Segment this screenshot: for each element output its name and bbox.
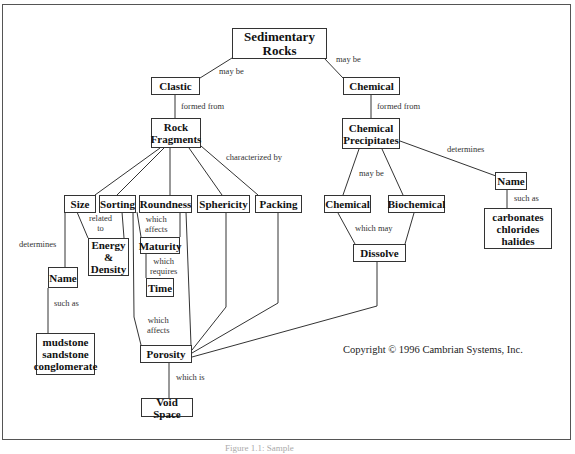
node-carbonates: carbonates chlorides halides (484, 208, 552, 249)
node-roundness: Roundness (139, 195, 192, 213)
link-label-related-to: related to (89, 213, 112, 233)
link-label-which-is: which is (176, 372, 205, 382)
node-name-left: Name (48, 267, 78, 288)
link-label-may-be-chem: may be (359, 168, 384, 178)
link-label-may-be-left: may be (219, 66, 244, 76)
link-label-such-as-left: such as (54, 298, 79, 308)
node-chemical: Chemical (343, 77, 400, 95)
node-chemical-lower: Chemical (324, 195, 371, 213)
node-sorting: Sorting (99, 195, 136, 213)
link-label-which-requires: which requires (150, 256, 177, 276)
node-maturity: Maturity (140, 237, 180, 254)
node-name-right: Name (495, 172, 527, 190)
link-label-formed-from-right: formed from (377, 101, 420, 111)
figure-caption: Figure 1.1: Sample (225, 443, 294, 453)
node-chemical-precipitates: Chemical Precipitates (342, 118, 400, 149)
node-void-space: Void Space (141, 398, 193, 417)
node-rock-names: mudstone sandstone conglomerate (36, 333, 95, 375)
link-label-which-affects-1: which affects (145, 214, 168, 234)
node-clastic: Clastic (151, 77, 200, 95)
node-sedimentary-rocks: Sedimentary Rocks (232, 28, 327, 59)
link-label-formed-from-left: formed from (181, 101, 224, 111)
node-size: Size (64, 195, 96, 213)
copyright-notice: Copyright © 1996 Cambrian Systems, Inc. (343, 344, 523, 355)
node-dissolve: Dissolve (353, 244, 406, 262)
node-time: Time (146, 278, 174, 297)
link-label-such-as-right: such as (514, 193, 539, 203)
node-rock-fragments: Rock Fragments (151, 118, 201, 148)
node-packing: Packing (255, 195, 302, 213)
link-label-characterized-by: characterized by (226, 152, 282, 162)
link-label-which-may: which may (355, 223, 393, 233)
node-sphericity: Sphericity (197, 195, 250, 213)
link-label-determines-left: determines (19, 239, 56, 249)
link-label-may-be-right: may be (336, 54, 361, 64)
link-label-determines-right: determines (447, 144, 484, 154)
node-porosity: Porosity (140, 345, 192, 363)
node-biochemical: Biochemical (388, 195, 445, 213)
node-energy-density: Energy & Density (88, 238, 129, 276)
link-label-which-affects-2: which affects (147, 315, 170, 335)
